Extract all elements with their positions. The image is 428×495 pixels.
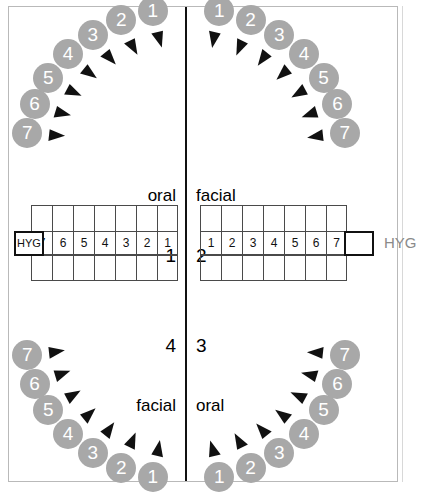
quadrant-1-surface: oral — [148, 186, 176, 206]
tooth-number-cell: 1 — [201, 231, 221, 255]
probe-cell-bottom[interactable] — [158, 255, 177, 281]
quadrant-4-number: 4 — [136, 336, 176, 356]
probe-cell-bottom[interactable] — [243, 255, 263, 281]
tooth-number-cell: 6 — [53, 231, 73, 255]
tooth-number-cell: 4 — [95, 231, 115, 255]
tooth-column-right-6[interactable]: 6 — [305, 205, 326, 281]
probe-cell-bottom[interactable] — [32, 255, 52, 281]
quadrant-4-surface: facial — [136, 396, 176, 416]
tooth-number-cell: 3 — [116, 231, 136, 255]
tooth-column-right-1[interactable]: 1 — [200, 205, 221, 281]
grid-half-right[interactable]: 1234567 — [200, 205, 347, 281]
tooth-column-left-4[interactable]: 4 — [94, 205, 115, 281]
tooth-column-right-3[interactable]: 3 — [242, 205, 263, 281]
probe-cell-top[interactable] — [74, 205, 94, 231]
probe-cell-bottom[interactable] — [264, 255, 284, 281]
probe-cell-top[interactable] — [285, 205, 305, 231]
probe-cell-top[interactable] — [53, 205, 73, 231]
probe-cell-top[interactable] — [327, 205, 346, 231]
quadrant-label-4: 4 facial — [136, 296, 176, 456]
tooth-number-cell: 6 — [306, 231, 326, 255]
quadrant-3-surface: oral — [196, 396, 224, 416]
tooth-column-right-4[interactable]: 4 — [263, 205, 284, 281]
probe-cell-bottom[interactable] — [53, 255, 73, 281]
probe-cell-top[interactable] — [222, 205, 242, 231]
probe-cell-bottom[interactable] — [74, 255, 94, 281]
probe-cell-bottom[interactable] — [327, 255, 346, 281]
probe-cell-bottom[interactable] — [116, 255, 136, 281]
tooth-number-cell: 3 — [243, 231, 263, 255]
hyg-box-left[interactable]: HYG — [14, 231, 44, 256]
probe-cell-bottom[interactable] — [222, 255, 242, 281]
probe-cell-top[interactable] — [137, 205, 157, 231]
probe-cell-bottom[interactable] — [285, 255, 305, 281]
quadrant-3-number: 3 — [196, 336, 224, 356]
hyg-caption-label: HYG — [384, 234, 417, 251]
probe-cell-top[interactable] — [158, 205, 177, 231]
tooth-column-right-5[interactable]: 5 — [284, 205, 305, 281]
probe-cell-top[interactable] — [116, 205, 136, 231]
tooth-number-cell: 1 — [158, 231, 177, 255]
tooth-column-left-5[interactable]: 5 — [73, 205, 94, 281]
probe-cell-bottom[interactable] — [201, 255, 221, 281]
probe-cell-top[interactable] — [243, 205, 263, 231]
measurement-grid: 7654321 1234567 HYG — [0, 205, 428, 281]
tooth-number-cell: 4 — [264, 231, 284, 255]
tooth-column-right-2[interactable]: 2 — [221, 205, 242, 281]
tooth-column-left-6[interactable]: 6 — [52, 205, 73, 281]
tooth-column-left-2[interactable]: 2 — [136, 205, 157, 281]
tooth-number-cell: 5 — [285, 231, 305, 255]
probe-cell-top[interactable] — [201, 205, 221, 231]
probe-cell-top[interactable] — [264, 205, 284, 231]
probe-cell-bottom[interactable] — [137, 255, 157, 281]
periodontal-chart: 7654321123456776543211234567 oral 1 faci… — [0, 0, 428, 495]
grid-half-left[interactable]: 7654321 — [31, 205, 178, 281]
tooth-number-cell: 5 — [74, 231, 94, 255]
hyg-box-right[interactable] — [344, 231, 374, 256]
quadrant-label-3: 3 oral — [196, 296, 224, 456]
probe-cell-bottom[interactable] — [306, 255, 326, 281]
tooth-number-cell: 2 — [137, 231, 157, 255]
quadrant-2-surface: facial — [196, 186, 236, 206]
tooth-column-left-3[interactable]: 3 — [115, 205, 136, 281]
probe-cell-bottom[interactable] — [95, 255, 115, 281]
probe-cell-top[interactable] — [95, 205, 115, 231]
probe-cell-top[interactable] — [32, 205, 52, 231]
tooth-column-left-1[interactable]: 1 — [157, 205, 178, 281]
tooth-number-cell: 2 — [222, 231, 242, 255]
probe-cell-top[interactable] — [306, 205, 326, 231]
